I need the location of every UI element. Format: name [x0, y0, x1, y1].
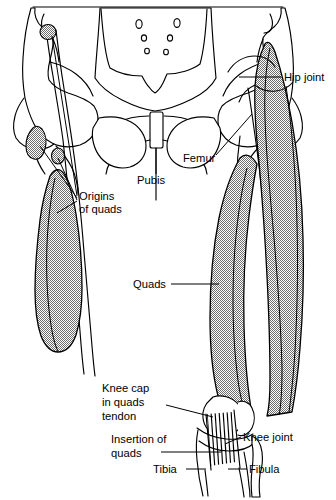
sacral-foramen [174, 19, 180, 28]
label-insertion-line1: Insertion of [111, 433, 167, 445]
sacrum [95, 8, 216, 111]
label-origins-of-quads-line1: Origins [79, 190, 115, 202]
label-knee-joint: Knee joint [243, 431, 294, 443]
sacral-foramen [164, 49, 169, 55]
label-fibula: Fibula [249, 463, 280, 475]
origin-patch-asis [40, 25, 56, 40]
origin-patch-aiis [26, 126, 46, 159]
label-knee-cap-line1: Knee cap [102, 382, 149, 394]
label-tibia: Tibia [153, 463, 178, 475]
obturator-foramen-left [92, 117, 146, 168]
label-origins-of-quads: Origins of quads [79, 190, 122, 215]
label-knee-cap-in-quads-tendon: Knee cap in quads tendon [102, 382, 149, 422]
sacral-foramen [167, 35, 172, 41]
label-insertion-of-quads: Insertion of quads [111, 433, 167, 459]
sacral-foramen [141, 35, 146, 41]
label-quads: Quads [133, 278, 166, 290]
origin-patch-acetabular [52, 148, 65, 164]
label-hip-joint: Hip joint [284, 71, 325, 83]
ilium-left [14, 8, 98, 194]
label-femur: Femur [183, 152, 216, 164]
anatomy-illustration: Hip joint Femur Pubis Origins of quads Q… [0, 0, 336, 500]
label-insertion-line2: quads [111, 447, 142, 459]
label-knee-cap-line3: tendon [102, 410, 136, 422]
sacral-foramen [136, 20, 142, 29]
quads-left [35, 170, 82, 352]
anatomy-figure: Hip joint Femur Pubis Origins of quads Q… [0, 0, 336, 500]
label-knee-cap-line2: in quads [102, 396, 145, 408]
label-pubis: Pubis [137, 174, 165, 186]
sacral-foramen [145, 48, 150, 54]
label-origins-of-quads-line2: of quads [79, 203, 122, 215]
